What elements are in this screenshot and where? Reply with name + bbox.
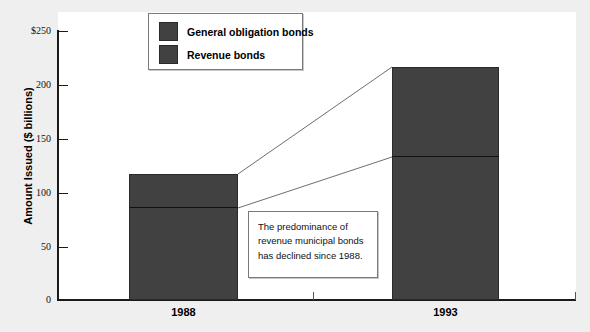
legend-label-revenue-bonds: Revenue bonds bbox=[187, 49, 265, 61]
x-tick-left bbox=[313, 292, 314, 300]
legend-swatch-general-obligation-bonds bbox=[159, 22, 178, 41]
legend-item-general-obligation-bonds[interactable]: General obligation bonds bbox=[159, 22, 314, 41]
y-tick-100 bbox=[59, 193, 68, 194]
bar-1993[interactable] bbox=[392, 67, 499, 300]
legend-item-revenue-bonds[interactable]: Revenue bonds bbox=[159, 45, 265, 64]
y-tick-label-250: $250 bbox=[5, 25, 51, 36]
callout-text: The predominance of revenue municipal bo… bbox=[258, 220, 368, 263]
x-label-1988: 1988 bbox=[129, 306, 238, 318]
chart-canvas: $250 200 150 100 50 0 Amount Issued ($ b… bbox=[0, 0, 590, 332]
y-axis-line bbox=[57, 30, 59, 301]
y-tick-0 bbox=[59, 300, 68, 301]
y-tick-50 bbox=[59, 247, 68, 248]
legend-swatch-revenue-bonds bbox=[159, 45, 178, 64]
bar-1993-revenue-segment[interactable] bbox=[392, 157, 499, 300]
bar-1988-general-obligation-segment[interactable] bbox=[129, 174, 238, 208]
x-tick-right bbox=[575, 292, 576, 300]
legend: General obligation bonds Revenue bonds bbox=[148, 13, 303, 70]
bar-1988-revenue-segment[interactable] bbox=[129, 208, 238, 300]
y-axis-title: Amount Issued ($ billions) bbox=[22, 56, 34, 256]
y-tick-200 bbox=[59, 85, 68, 86]
bar-1993-general-obligation-segment[interactable] bbox=[392, 67, 499, 157]
y-tick-150 bbox=[59, 139, 68, 140]
bar-1988[interactable] bbox=[129, 174, 238, 300]
y-tick-label-0: 0 bbox=[5, 294, 51, 305]
callout-annotation: The predominance of revenue municipal bo… bbox=[248, 211, 378, 278]
y-tick-250 bbox=[59, 31, 68, 32]
x-label-1993: 1993 bbox=[392, 306, 499, 318]
legend-label-general-obligation-bonds: General obligation bonds bbox=[187, 26, 314, 38]
